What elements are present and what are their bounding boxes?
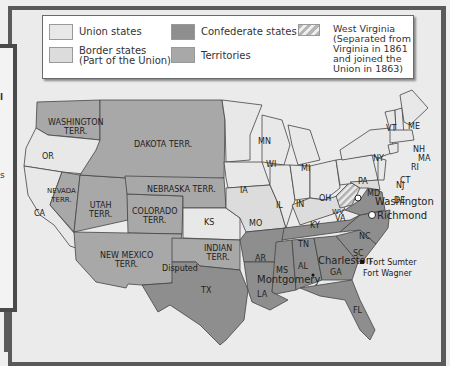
label-ca: CA xyxy=(34,209,45,218)
label-al: AL xyxy=(298,262,308,271)
side-glyph: s xyxy=(0,170,5,180)
label-mo: MO xyxy=(249,219,262,228)
label-ky: KY xyxy=(310,221,320,230)
side-panel: l s xyxy=(0,44,17,312)
legend-border: Border states (Part of the Union) xyxy=(79,46,171,66)
label-washington: Washington xyxy=(375,197,434,206)
label-ma: MA xyxy=(418,154,430,163)
state-mn xyxy=(222,100,262,162)
legend-confederate: Confederate states xyxy=(201,27,297,37)
label-ut: UTAH TERR. xyxy=(89,201,112,219)
label-ne: NEBRASKA TERR. xyxy=(147,185,216,194)
label-vt: VT xyxy=(386,124,396,133)
label-nh: NH xyxy=(413,145,425,154)
label-il: IL xyxy=(276,201,283,210)
label-wi: WI xyxy=(266,160,276,169)
label-nc: NC xyxy=(359,232,371,241)
label-mn: MN xyxy=(258,137,271,146)
map-legend: Union states Border states (Part of the … xyxy=(42,15,414,79)
territories-swatch xyxy=(171,47,195,63)
label-ga: GA xyxy=(330,268,342,277)
label-ar: AR xyxy=(255,254,266,263)
label-ny: NY xyxy=(373,154,384,163)
label-ri: RI xyxy=(411,163,419,172)
label-in: IN xyxy=(296,200,304,209)
label-me: ME xyxy=(408,122,420,131)
label-wv: WV xyxy=(332,208,344,217)
label-disputed: Disputed xyxy=(162,264,198,273)
label-nm: NEW MEXICO TERR. xyxy=(100,251,153,269)
label-fort-wagner: Fort Wagner xyxy=(363,269,412,278)
legend-union: Union states xyxy=(79,27,142,37)
label-fort-sumter: Fort Sumter xyxy=(369,258,416,267)
label-ia: IA xyxy=(240,186,248,195)
label-it: INDIAN TERR. xyxy=(204,244,232,262)
label-or: OR xyxy=(42,152,54,161)
state-mi xyxy=(288,125,320,165)
state-ct xyxy=(388,143,398,154)
label-montgomery: Montgomery xyxy=(257,275,320,284)
state-ia xyxy=(224,162,270,188)
label-mi: MI xyxy=(301,164,310,173)
confederate-swatch xyxy=(171,24,195,40)
label-oh: OH xyxy=(319,194,331,203)
label-tx: TX xyxy=(201,286,211,295)
side-glyph: l xyxy=(0,92,3,102)
label-pa: PA xyxy=(358,177,368,186)
label-dk: DAKOTA TERR. xyxy=(134,140,192,149)
union-swatch xyxy=(49,24,73,40)
label-wa: WASHINGTON TERR. xyxy=(48,118,103,136)
label-nv: NEVADA TERR. xyxy=(47,187,76,205)
label-tn: TN xyxy=(298,240,309,249)
label-la: LA xyxy=(257,290,267,299)
state-me xyxy=(400,90,428,125)
label-fl: FL xyxy=(353,306,362,315)
label-richmond: Richmond xyxy=(377,211,427,220)
label-co: COLORADO TERR. xyxy=(132,207,178,225)
legend-west-virginia: West Virginia (Separated from Virginia i… xyxy=(333,24,411,74)
state-fl xyxy=(300,280,375,340)
label-nj: NJ xyxy=(396,181,404,190)
legend-territories: Territories xyxy=(201,51,251,61)
west-virginia-swatch xyxy=(298,24,320,36)
label-ks: KS xyxy=(204,218,214,227)
border-swatch xyxy=(49,47,73,63)
label-charleston: Charleston xyxy=(318,256,372,265)
